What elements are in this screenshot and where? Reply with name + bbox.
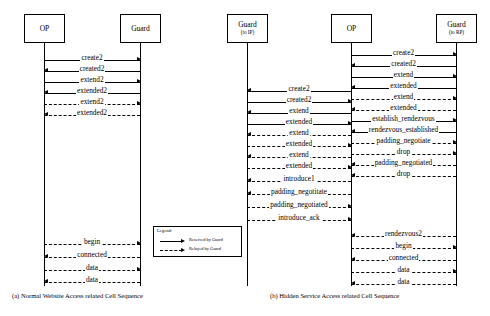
lifeline-head-guard-ip-label: Guard — [238, 21, 257, 29]
message-a-4-label: extend2 — [44, 97, 140, 106]
message-b-left-11: introduce_ack — [247, 216, 351, 225]
message-b-right-16: data — [351, 280, 456, 289]
message-a-6-label: begin — [44, 237, 140, 246]
lifeline-head-op-a: OP — [24, 14, 65, 43]
message-b-left-8: introduce1 — [247, 177, 351, 186]
lifeline-head-op-b: OP — [331, 14, 372, 43]
message-b-right-5-label: extended — [351, 103, 456, 112]
message-b-right-12-label: rendezvous2 — [351, 229, 456, 238]
message-b-right-2-label: extend — [351, 70, 456, 79]
legend-row-received: Received by Guard — [160, 238, 240, 245]
caption-panel-a: (a) Normal Website Access related Cell S… — [12, 292, 143, 299]
message-a-3-label: extended2 — [44, 86, 140, 95]
message-a-0-label: create2 — [44, 53, 140, 62]
message-a-2-label: extend2 — [44, 75, 140, 84]
message-a-9: data — [44, 278, 140, 287]
message-b-left-5-label: extended — [247, 139, 351, 148]
message-a-8-label: data — [44, 263, 140, 272]
message-b-right-1-label: created2 — [351, 59, 456, 68]
message-a-7-label: connected — [44, 250, 140, 259]
message-b-left-1-label: created2 — [247, 95, 351, 104]
message-b-left-7-label: extended — [247, 161, 351, 170]
message-b-right-13-label: begin — [351, 241, 456, 250]
message-b-right-10-label: padding_negotiated — [351, 158, 456, 167]
message-a-5-label: extended2 — [44, 108, 140, 117]
message-b-right-11-label: drop — [351, 169, 456, 178]
message-b-left-10-label: padding_negotiated — [247, 200, 351, 209]
arrowhead-right-icon — [181, 248, 185, 252]
lifeline-head-op-b-label: OP — [347, 25, 357, 33]
legend-title: Legend: — [157, 228, 172, 233]
message-b-right-15-label: data — [351, 265, 456, 274]
message-b-right-7-label: rendezvous_established — [351, 125, 456, 134]
message-b-right-4-label: extend — [351, 92, 456, 101]
message-b-right-0-label: create2 — [351, 48, 456, 57]
legend-solid-line — [160, 241, 182, 242]
message-b-right-11: drop — [351, 172, 456, 181]
message-b-left-0-label: create2 — [247, 84, 351, 93]
lifeline-head-guard-rp-label: Guard — [447, 21, 466, 29]
arrowhead-right-icon — [181, 239, 185, 243]
lifeline-head-guard-rp: Guard (to RP) — [436, 14, 477, 43]
message-a-6: begin — [44, 240, 140, 249]
lifeline-head-guard-ip: Guard (to IP) — [227, 14, 268, 43]
message-b-right-9-label: drop — [351, 147, 456, 156]
message-b-right-3-label: extended — [351, 81, 456, 90]
message-b-left-9: padding_negotitate — [247, 190, 351, 199]
message-b-left-3-label: extended — [247, 117, 351, 126]
message-b-right-6-label: establish_rendezvous — [351, 114, 456, 123]
lifeline-head-guard-a-label: Guard — [131, 25, 150, 33]
lifeline-head-op-a-label: OP — [40, 25, 50, 33]
lifeline-head-guard-ip-sublabel: (to IP) — [241, 30, 254, 35]
message-b-left-2-label: extend — [247, 106, 351, 115]
sequence-diagram-canvas: OP Guard create2 created2 extend2 extend… — [0, 0, 490, 316]
message-b-left-9-label: padding_negotitate — [247, 187, 351, 196]
legend-dashed-line — [160, 250, 182, 251]
caption-panel-b: (b) Hidden Service Access related Cell S… — [270, 292, 399, 299]
message-b-left-6-label: extend — [247, 150, 351, 159]
message-b-right-16-label: data — [351, 277, 456, 286]
lifeline-head-guard-rp-sublabel: (to RP) — [449, 30, 464, 35]
message-a-1-label: created2 — [44, 64, 140, 73]
message-b-left-10: padding_negotiated — [247, 203, 351, 212]
lifeline-guard-rp — [456, 43, 457, 286]
message-b-right-14-label: connected — [351, 253, 456, 262]
message-a-9-label: data — [44, 275, 140, 284]
message-b-right-8-label: padding_negotiate — [351, 136, 456, 145]
legend-row-relayed-label: Relayed by Guard — [189, 246, 221, 251]
message-a-7: connected — [44, 253, 140, 262]
message-b-left-4-label: extend — [247, 128, 351, 137]
lifeline-head-guard-a: Guard — [120, 14, 161, 43]
message-b-left-8-label: introduce1 — [247, 174, 351, 183]
legend-row-received-label: Received by Guard — [189, 237, 223, 242]
legend-row-relayed: Relayed by Guard — [160, 247, 240, 254]
message-b-left-7: extended — [247, 164, 351, 173]
message-b-left-11-label: introduce_ack — [247, 213, 351, 222]
message-a-5: extended2 — [44, 111, 140, 120]
legend: Legend: Received by Guard Relayed by Gua… — [153, 226, 242, 257]
